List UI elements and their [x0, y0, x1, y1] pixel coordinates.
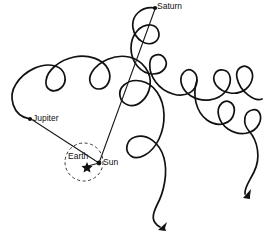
- jupiter-marker: [28, 117, 32, 121]
- saturn-label: Saturn: [157, 2, 182, 11]
- earth-label: Earth: [68, 152, 88, 161]
- jupiter-orbit-path: [12, 56, 166, 227]
- earth-star-marker: [81, 162, 92, 173]
- orbit-diagram: Saturn Jupiter Earth Sun: [0, 0, 263, 240]
- jupiter-label: Jupiter: [33, 114, 59, 123]
- sun-saturn-sight-line: [99, 9, 155, 163]
- sun-label: Sun: [103, 158, 118, 167]
- sun-marker: [97, 161, 102, 166]
- sun-jupiter-sight-line: [31, 119, 99, 163]
